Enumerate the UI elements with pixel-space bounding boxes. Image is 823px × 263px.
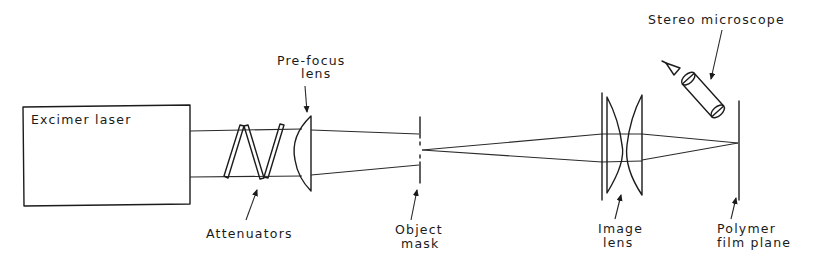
microscope-arrow bbox=[711, 30, 722, 79]
input-beam bbox=[190, 129, 302, 177]
prefocus-label-line2: lens bbox=[301, 66, 331, 81]
image-lens-label-line1: Image bbox=[598, 221, 643, 236]
image-lens-element-1 bbox=[607, 97, 623, 193]
attenuators-arrow bbox=[246, 190, 257, 220]
attenuator-plate-1 bbox=[224, 125, 244, 178]
label-stereo-microscope: Stereo microscope bbox=[648, 12, 785, 79]
optical-setup-diagram: Excimer laser bbox=[0, 0, 823, 263]
attenuators bbox=[224, 124, 284, 179]
mask-label-line1: Object bbox=[395, 222, 443, 237]
attenuator-plate-2 bbox=[244, 125, 264, 179]
attenuators-label: Attenuators bbox=[206, 226, 293, 241]
microscope-label: Stereo microscope bbox=[648, 12, 785, 27]
focused-beam bbox=[642, 134, 738, 160]
laser-label: Excimer laser bbox=[31, 112, 131, 127]
film-label-line2: film plane bbox=[717, 235, 791, 250]
label-object-mask: Object mask bbox=[395, 190, 443, 251]
mask-arrow bbox=[411, 190, 417, 220]
attenuator-plate-3 bbox=[264, 124, 284, 178]
label-attenuators: Attenuators bbox=[206, 190, 293, 241]
label-prefocus-lens: Pre-focus lens bbox=[277, 53, 346, 112]
eye-icon bbox=[666, 63, 680, 75]
prefocus-arrow bbox=[305, 86, 307, 112]
image-lens-element-2 bbox=[627, 95, 642, 195]
film-label-line1: Polymer bbox=[717, 221, 776, 236]
imaging-beam bbox=[422, 134, 642, 162]
stereo-microscope bbox=[662, 61, 727, 120]
label-image-lens: Image lens bbox=[598, 195, 643, 250]
film-arrow bbox=[731, 198, 736, 219]
mask-label-line2: mask bbox=[401, 236, 439, 251]
label-polymer-film: Polymer film plane bbox=[717, 198, 791, 250]
prefocus-lens bbox=[294, 116, 311, 191]
image-lens-arrow bbox=[615, 195, 621, 219]
image-lens bbox=[602, 93, 642, 200]
excimer-laser: Excimer laser bbox=[23, 105, 190, 206]
image-lens-label-line2: lens bbox=[603, 235, 633, 250]
prefocus-beam bbox=[311, 130, 419, 175]
